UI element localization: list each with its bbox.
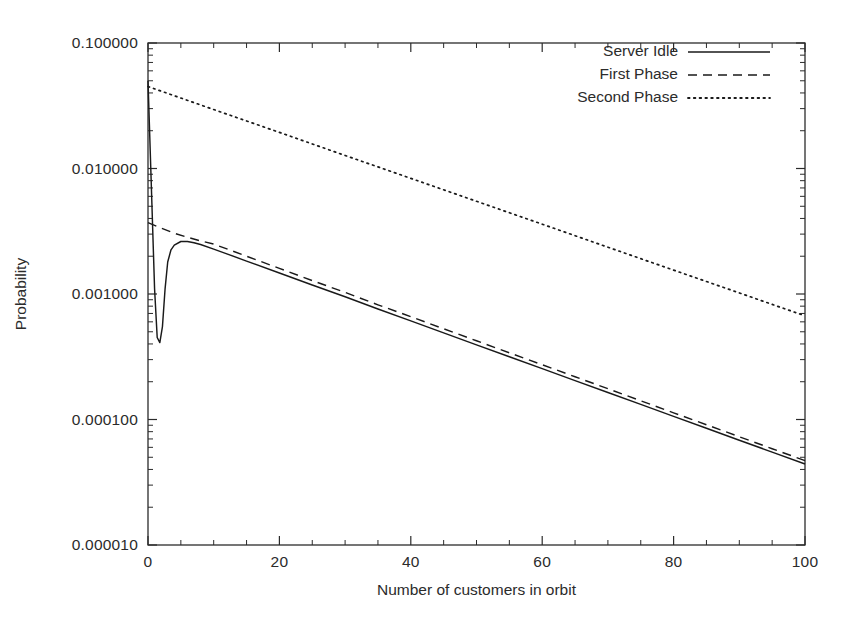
legend-item-server-idle: Server Idle (0, 42, 678, 60)
x-tick-label: 100 (765, 553, 845, 571)
x-tick-label: 20 (239, 553, 319, 571)
legend-item-second-phase: Second Phase (0, 88, 678, 106)
y-tick-label: 0.010000 (0, 160, 138, 178)
y-tick-label: 0.000010 (0, 536, 138, 554)
x-tick-label: 80 (634, 553, 714, 571)
x-tick-label: 40 (371, 553, 451, 571)
x-axis-title: Number of customers in orbit (0, 581, 863, 599)
x-tick-label: 60 (502, 553, 582, 571)
probability-vs-orbit-chart: 0.000010 0.000100 0.001000 0.010000 0.10… (0, 0, 863, 623)
y-axis-title: Probability (12, 258, 30, 330)
y-tick-label: 0.000100 (0, 411, 138, 429)
legend-item-first-phase: First Phase (0, 65, 678, 83)
x-tick-label: 0 (108, 553, 188, 571)
